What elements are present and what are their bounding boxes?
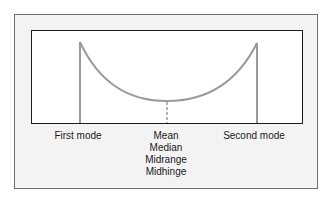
second-mode-label: Second mode bbox=[223, 130, 285, 142]
midhinge-label: Midhinge bbox=[145, 166, 187, 178]
first-mode-label: First mode bbox=[54, 130, 101, 142]
mean-label: Mean bbox=[145, 130, 187, 142]
midrange-label: Midrange bbox=[145, 154, 187, 166]
center-labels: Mean Median Midrange Midhinge bbox=[145, 130, 187, 178]
plot-area bbox=[31, 30, 303, 124]
median-label: Median bbox=[145, 142, 187, 154]
